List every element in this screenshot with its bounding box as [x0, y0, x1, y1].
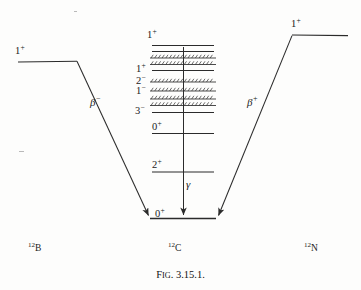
level-label-c-3minus: 3− [135, 106, 145, 117]
decay-label-beta-plus: β+ [247, 97, 258, 108]
level-label-c-1minus: 1− [136, 86, 146, 97]
nuclide-label-carbon-12: 12C [168, 244, 181, 254]
level-line-right-parent [292, 35, 348, 36]
nuclide-label-nitrogen-12: 12N [304, 244, 318, 254]
nuclear-decay-scheme-figure: 1+ 1+ 2− 1− 3− 0+ 2+ 0+ 1+ 1+ β− β+ γ 12… [0, 0, 361, 290]
level-line-left-parent [18, 61, 77, 62]
level-label-right-parent-1plus: 1+ [291, 19, 301, 30]
nuclide-label-boron-12: 12B [28, 244, 41, 254]
decay-label-gamma: γ [186, 179, 190, 190]
scan-speck [19, 151, 24, 152]
level-label-left-parent-1plus: 1+ [15, 46, 25, 57]
level-label-c-0plus-excited: 0+ [152, 122, 162, 133]
level-label-c-2plus: 2+ [152, 160, 162, 171]
figure-caption: FIG. 3.15.1. [0, 269, 361, 280]
level-label-c-ground-0plus: 0+ [155, 209, 165, 220]
beta-plus-decay-arrow [219, 36, 293, 216]
scan-speck [74, 11, 77, 12]
level-label-c-1plus-upper: 1+ [147, 30, 157, 41]
decay-label-beta-minus: β− [90, 97, 101, 108]
